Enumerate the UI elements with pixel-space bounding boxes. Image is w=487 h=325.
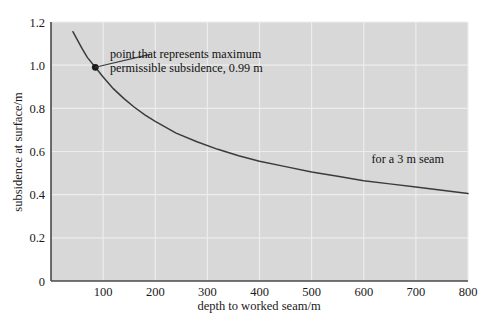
y-tick-label-0.4: 0.4: [29, 188, 45, 202]
x-tick-label-600: 600: [354, 285, 373, 299]
x-tick-label-500: 500: [302, 285, 321, 299]
y-tick-label-0.6: 0.6: [29, 145, 45, 159]
x-tick-label-700: 700: [407, 285, 426, 299]
seam-annotation-label: for a 3 m seam: [372, 152, 445, 166]
x-tick-label-100: 100: [94, 285, 113, 299]
subsidence-vs-depth-chart: point that represents maximum permissibl…: [0, 0, 487, 325]
y-axis-tick-labels: 00.20.40.60.81.01.2: [29, 16, 45, 289]
annotation-line-1: point that represents maximum: [110, 47, 262, 61]
y-tick-label-1.0: 1.0: [29, 59, 45, 73]
x-tick-label-300: 300: [198, 285, 217, 299]
x-axis-title: depth to worked seam/m: [197, 299, 321, 313]
y-tick-label-1.2: 1.2: [29, 16, 45, 30]
annotation-line-2: permissible subsidence, 0.99 m: [110, 61, 263, 75]
y-tick-label-0.2: 0.2: [29, 231, 45, 245]
y-tick-label-0: 0: [39, 275, 45, 289]
y-axis-title: subsidence at surface/m: [11, 92, 25, 212]
chart-figure: point that represents maximum permissibl…: [0, 0, 487, 325]
y-tick-label-0.8: 0.8: [29, 102, 45, 116]
x-tick-label-400: 400: [250, 285, 269, 299]
x-tick-label-200: 200: [146, 285, 165, 299]
x-tick-label-800: 800: [459, 285, 478, 299]
x-axis-tick-labels: 100200300400500600700800: [94, 285, 478, 299]
